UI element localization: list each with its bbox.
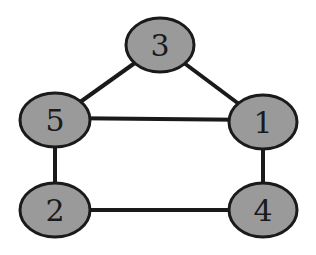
node-1: 1	[229, 95, 297, 149]
node-4: 4	[229, 183, 297, 237]
node-label: 5	[45, 103, 64, 138]
node-label: 4	[253, 193, 272, 228]
node-label: 1	[253, 105, 272, 140]
node-2: 2	[20, 183, 90, 237]
graph-diagram: 3 5 1 2 4	[0, 0, 316, 255]
node-3: 3	[126, 18, 194, 72]
node-label: 2	[45, 193, 64, 228]
node-5: 5	[20, 93, 90, 147]
node-label: 3	[150, 28, 169, 63]
